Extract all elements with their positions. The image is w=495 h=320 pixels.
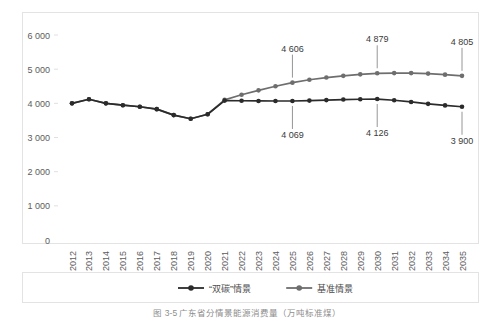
- x-tick-label: 2022: [237, 251, 247, 271]
- series-marker: [426, 102, 431, 107]
- series-marker: [392, 98, 397, 103]
- x-tick-label: 2023: [254, 251, 264, 271]
- series-marker: [273, 84, 278, 89]
- series-marker: [290, 99, 295, 104]
- series-marker: [256, 88, 261, 93]
- series-marker: [324, 98, 329, 103]
- x-tick-label: 2013: [84, 251, 94, 271]
- x-tick-label: 2017: [152, 251, 162, 271]
- figure-container: 01 0002 0003 0004 0005 0006 000 20122013…: [0, 0, 495, 320]
- data-label: 4 126: [366, 128, 389, 138]
- series-marker: [443, 103, 448, 108]
- y-tick-label: 6 000: [27, 31, 50, 41]
- data-label: 4 069: [281, 130, 304, 140]
- y-tick-label: 1 000: [27, 201, 50, 211]
- series-marker: [188, 116, 193, 121]
- series-marker: [341, 97, 346, 102]
- series-marker: [121, 103, 126, 108]
- series-marker: [205, 112, 210, 117]
- x-tick-label: 2033: [424, 251, 434, 271]
- line-chart: 01 0002 0003 0004 0005 0006 000 20122013…: [0, 0, 495, 320]
- series-marker: [256, 99, 261, 104]
- series-marker: [460, 74, 465, 79]
- series-marker: [104, 101, 109, 106]
- series-marker: [409, 71, 414, 76]
- x-tick-label: 2018: [169, 251, 179, 271]
- series-marker: [171, 113, 176, 118]
- data-label: 4 805: [451, 37, 474, 47]
- x-tick-label: 2027: [322, 251, 332, 271]
- x-tick-label: 2032: [407, 251, 417, 271]
- x-tick-label: 2026: [305, 251, 315, 271]
- x-tick-label: 2035: [458, 251, 468, 271]
- series-marker: [154, 107, 159, 112]
- series-marker: [460, 104, 465, 109]
- x-tick-label: 2030: [373, 251, 383, 271]
- series-marker: [273, 99, 278, 104]
- series-marker: [392, 71, 397, 76]
- x-tick-label: 2014: [101, 251, 111, 271]
- y-tick-label: 4 000: [27, 99, 50, 109]
- data-label: 4 879: [366, 34, 389, 44]
- series-marker: [358, 97, 363, 102]
- legend-label: “双碳”情景: [209, 283, 251, 294]
- series-marker: [324, 75, 329, 80]
- series-marker: [290, 80, 295, 85]
- data-label: 4 606: [281, 44, 304, 54]
- figure-caption: 图 3-5 广东省分情景能源消费量（万吨标准煤）: [0, 306, 495, 320]
- x-tick-label: 2029: [356, 251, 366, 271]
- x-tick-label: 2034: [441, 251, 451, 271]
- x-tick-label: 2025: [288, 251, 298, 271]
- series-marker: [409, 100, 414, 105]
- x-tick-label: 2021: [220, 251, 230, 271]
- y-tick-label: 2 000: [27, 167, 50, 177]
- series-marker: [358, 72, 363, 77]
- series-marker: [443, 72, 448, 77]
- legend-label: 基准情景: [317, 283, 353, 294]
- x-tick-label: 2019: [186, 251, 196, 271]
- series-marker: [307, 98, 312, 103]
- series-marker: [87, 97, 92, 102]
- series-marker: [375, 97, 380, 102]
- y-tick-label: 0: [45, 236, 50, 246]
- series-marker: [239, 92, 244, 97]
- series-marker: [239, 98, 244, 103]
- series-marker: [375, 71, 380, 76]
- x-tick-label: 2031: [390, 251, 400, 271]
- data-label: 3 900: [451, 136, 474, 146]
- series-marker: [222, 98, 227, 103]
- x-tick-label: 2015: [118, 251, 128, 271]
- y-tick-label: 5 000: [27, 65, 50, 75]
- series-marker: [307, 77, 312, 82]
- x-tick-label: 2020: [203, 251, 213, 271]
- x-tick-label: 2028: [339, 251, 349, 271]
- y-tick-label: 3 000: [27, 133, 50, 143]
- x-tick-label: 2012: [68, 251, 78, 271]
- x-tick-label: 2024: [271, 251, 281, 271]
- series-marker: [341, 74, 346, 79]
- series-marker: [138, 104, 143, 109]
- series-marker: [426, 71, 431, 76]
- x-tick-label: 2016: [135, 251, 145, 271]
- series-marker: [70, 101, 75, 106]
